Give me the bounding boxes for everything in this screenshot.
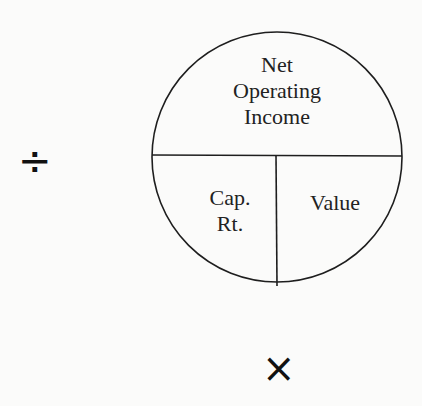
label-line: Value: [285, 190, 385, 216]
net-operating-income-label: Net Operating Income: [217, 52, 337, 130]
label-line: Income: [217, 104, 337, 130]
vertical-divider: [276, 155, 277, 286]
horizontal-divider: [152, 155, 402, 156]
label-line: Cap.: [195, 185, 265, 211]
label-line: Operating: [217, 78, 337, 104]
multiply-icon: ×: [262, 346, 296, 390]
label-line: Rt.: [195, 211, 265, 237]
label-line: Net: [217, 52, 337, 78]
value-label: Value: [285, 190, 385, 216]
irv-diagram: Net Operating Income Cap. Rt. Value ÷ ×: [0, 0, 422, 406]
cap-rate-label: Cap. Rt.: [195, 185, 265, 237]
divide-icon: ÷: [18, 138, 52, 182]
